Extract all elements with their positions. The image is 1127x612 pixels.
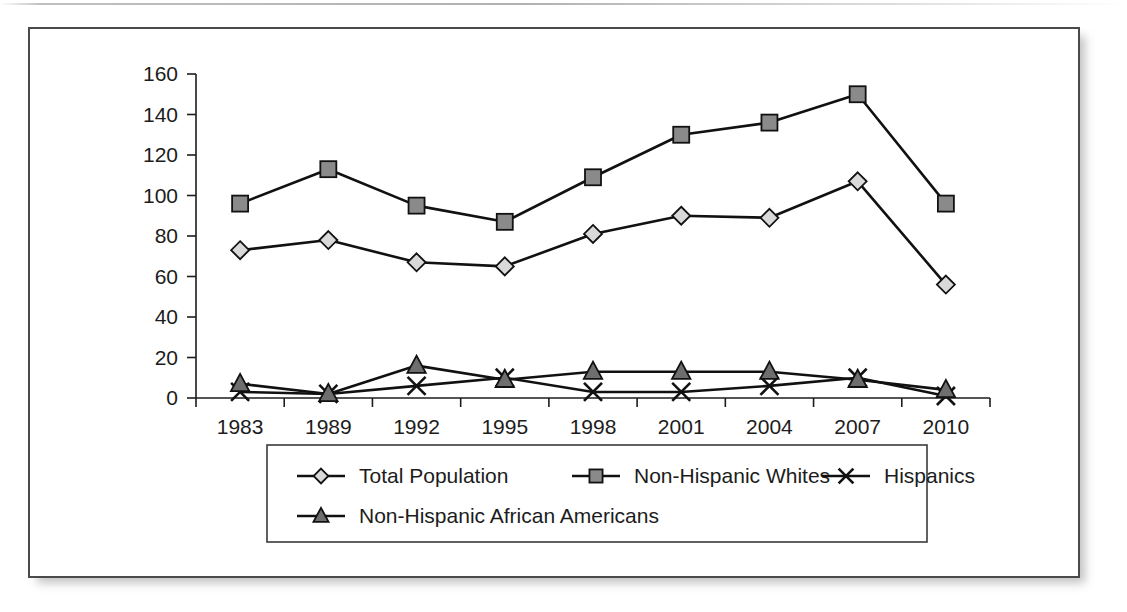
legend-marker-square (589, 469, 602, 482)
data-point (584, 362, 602, 379)
data-point (231, 374, 249, 391)
y-tick-label: 0 (166, 386, 178, 409)
data-point (672, 362, 690, 379)
figure-frame: 020406080100120140160 198319891992199519… (28, 27, 1080, 578)
data-point (585, 169, 601, 185)
legend-label: Non-Hispanic African Americans (359, 504, 659, 527)
x-tick-label: 1995 (481, 415, 528, 438)
y-tick-label: 80 (155, 224, 178, 247)
x-axis: 198319891992199519982001200420072010 (196, 398, 990, 438)
data-point (320, 161, 336, 177)
x-tick-label: 1989 (305, 415, 352, 438)
data-point (496, 257, 514, 275)
y-tick-label: 20 (155, 346, 178, 369)
data-point (409, 198, 425, 214)
y-tick-label: 140 (143, 103, 178, 126)
data-point (673, 127, 689, 143)
scan-artifact-top-line (0, 3, 1127, 5)
x-tick-label: 2004 (746, 415, 793, 438)
chart-legend: Total PopulationNon-Hispanic WhitesHispa… (267, 445, 975, 542)
data-point (760, 209, 778, 227)
x-tick-label: 2007 (834, 415, 881, 438)
data-point (760, 362, 778, 379)
y-tick-label: 100 (143, 184, 178, 207)
y-tick-label: 160 (143, 62, 178, 85)
y-tick-label: 120 (143, 143, 178, 166)
series-layer (231, 86, 955, 405)
chart-area: 020406080100120140160 198319891992199519… (30, 29, 1078, 576)
data-point (850, 86, 866, 102)
legend-label: Non-Hispanic Whites (634, 464, 830, 487)
series-1 (231, 172, 955, 293)
legend-label: Total Population (359, 464, 508, 487)
data-point (408, 253, 426, 271)
data-point (761, 115, 777, 131)
line-chart: 020406080100120140160 198319891992199519… (30, 29, 1078, 576)
series-4 (231, 356, 955, 402)
data-point (232, 196, 248, 212)
x-tick-label: 2001 (658, 415, 705, 438)
y-tick-label: 60 (155, 265, 178, 288)
data-point (584, 225, 602, 243)
x-tick-label: 1992 (393, 415, 440, 438)
data-point (672, 207, 690, 225)
y-axis: 020406080100120140160 (143, 62, 196, 409)
y-tick-label: 40 (155, 305, 178, 328)
data-point (938, 196, 954, 212)
legend-box (267, 445, 927, 542)
legend-label: Hispanics (884, 464, 975, 487)
data-point (319, 231, 337, 249)
data-point (497, 214, 513, 230)
series-2 (232, 86, 954, 230)
x-tick-label: 1983 (217, 415, 264, 438)
series-line (240, 94, 946, 222)
data-point (231, 241, 249, 259)
x-tick-label: 2010 (923, 415, 970, 438)
data-point (407, 356, 425, 373)
x-tick-label: 1998 (570, 415, 617, 438)
